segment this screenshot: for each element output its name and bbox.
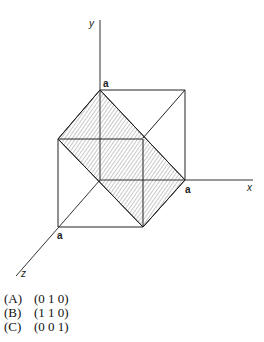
option-c[interactable]: (C)(0 0 1) xyxy=(4,320,69,334)
z-axis-label: z xyxy=(20,268,26,279)
label-a-z: a xyxy=(57,230,63,241)
x-axis-label: x xyxy=(246,182,253,193)
option-a[interactable]: (A)(0 1 0) xyxy=(4,292,69,306)
label-a-y: a xyxy=(103,78,109,89)
label-a-x: a xyxy=(185,184,191,195)
answer-options: (A)(0 1 0) (B)(1 1 0) (C)(0 0 1) xyxy=(4,292,69,334)
y-axis-label: y xyxy=(88,18,95,29)
option-b[interactable]: (B)(1 1 0) xyxy=(4,306,69,320)
